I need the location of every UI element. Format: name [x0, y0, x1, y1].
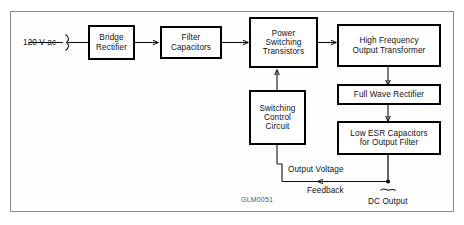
block-power-switching-transistors[interactable]: Power Switching Transistors: [249, 17, 318, 68]
label-dc-output: DC Output: [368, 197, 408, 206]
block-label: High Frequency Output Transformer: [351, 36, 428, 54]
label-ac-input: 120 V ac: [23, 38, 56, 47]
block-full-wave-rectifier[interactable]: Full Wave Rectifier: [337, 84, 441, 105]
block-label: Low ESR Capacitors for Output Filter: [348, 129, 429, 147]
block-switching-control-circuit[interactable]: Switching Control Circuit: [249, 90, 306, 145]
block-label: Bridge Rectifier: [94, 33, 129, 51]
block-label: Switching Control Circuit: [258, 104, 298, 132]
block-label: Power Switching Transistors: [261, 29, 306, 57]
block-bridge-rectifier[interactable]: Bridge Rectifier: [88, 25, 135, 60]
block-low-esr-capacitors[interactable]: Low ESR Capacitors for Output Filter: [337, 121, 441, 155]
label-output-voltage: Output Voltage: [288, 165, 344, 174]
block-high-frequency-output-transformer[interactable]: High Frequency Output Transformer: [337, 24, 441, 67]
block-filter-capacitors[interactable]: Filter Capacitors: [160, 26, 222, 59]
label-reference-code: GLM0051: [241, 196, 273, 203]
block-label: Filter Capacitors: [169, 33, 213, 51]
label-feedback: Feedback: [307, 186, 344, 195]
block-label: Full Wave Rectifier: [352, 90, 426, 99]
diagram-canvas: Bridge Rectifier Filter Capacitors Power…: [0, 0, 464, 225]
